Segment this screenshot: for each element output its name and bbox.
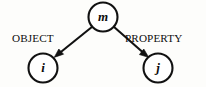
edge-object-line — [57, 27, 93, 56]
edge-object — [54, 27, 92, 58]
diagram-svg: m i j OBJECT PROPERTY — [0, 0, 206, 87]
node-m: m — [89, 3, 118, 32]
node-i-label: i — [41, 60, 45, 75]
node-m-label: m — [98, 9, 108, 24]
diagram-canvas: m i j OBJECT PROPERTY — [0, 0, 206, 87]
edge-label-object: OBJECT — [12, 32, 54, 44]
edge-label-property: PROPERTY — [125, 32, 182, 44]
node-j: j — [144, 54, 173, 83]
node-i: i — [29, 54, 58, 83]
